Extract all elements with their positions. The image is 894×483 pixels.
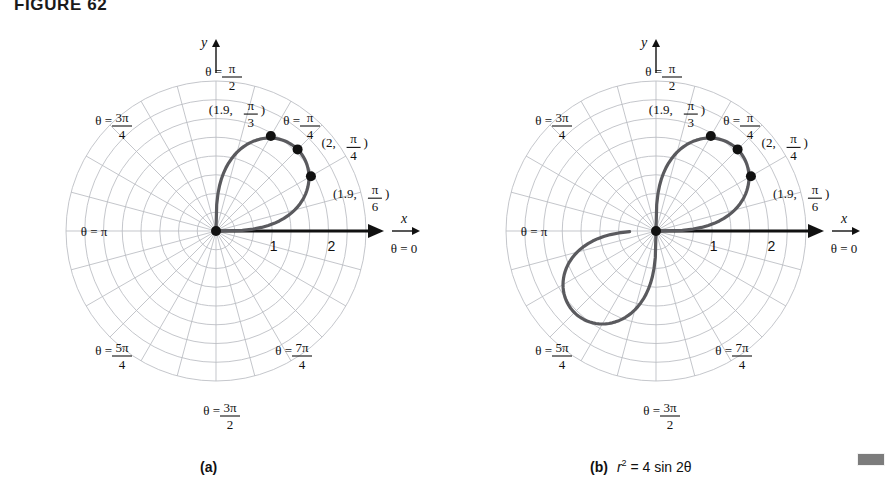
svg-text:5π: 5π — [555, 340, 569, 355]
svg-text:): ) — [261, 102, 265, 117]
point-label-0: (1.9,π3) — [209, 98, 265, 130]
svg-text:7π: 7π — [295, 340, 309, 355]
angle-label-theta-zero: θ = 0 — [831, 241, 858, 256]
angle-label-theta-zero: θ = 0 — [391, 241, 418, 256]
svg-text:4: 4 — [747, 127, 754, 142]
svg-text:3π: 3π — [663, 400, 677, 415]
svg-text:4: 4 — [790, 148, 797, 163]
svg-text:3: 3 — [248, 115, 255, 130]
svg-text:6: 6 — [812, 199, 819, 214]
origin-point — [651, 226, 661, 236]
radial-tick-labels: 12 — [270, 238, 336, 254]
data-point-0 — [266, 131, 276, 141]
svg-text:θ =: θ = — [95, 343, 112, 358]
angle-label-3pi-over-2: θ = 3π2 — [203, 400, 240, 432]
svg-text:): ) — [804, 135, 808, 150]
polar-plot-panel-a: yx12θ = π2θ = 3π4θ = πθ = 5π4θ = 3π2θ = … — [18, 18, 438, 438]
point-label-0: (1.9,π3) — [649, 98, 705, 130]
svg-text:θ =: θ = — [723, 113, 740, 128]
polar-chart-a: yx12θ = π2θ = 3π4θ = πθ = 5π4θ = 3π2θ = … — [18, 18, 438, 438]
x-axis-label: x — [400, 211, 408, 226]
svg-text:θ =: θ = — [275, 343, 292, 358]
svg-text:(1.9,: (1.9, — [773, 186, 797, 201]
radial-tick-1: 1 — [270, 238, 278, 254]
radial-tick-2: 2 — [327, 238, 335, 254]
angle-label-3pi-over-4: θ = 3π4 — [535, 110, 572, 142]
svg-text:π: π — [248, 98, 255, 113]
svg-text:θ =: θ = — [715, 343, 732, 358]
angle-label-pi-over-4: θ = π4 — [283, 110, 320, 142]
svg-text:θ = π: θ = π — [521, 224, 548, 239]
svg-text:θ =: θ = — [535, 113, 552, 128]
svg-text:4: 4 — [299, 357, 306, 372]
svg-text:π: π — [350, 131, 357, 146]
corner-gray-block — [857, 453, 885, 466]
svg-text:π: π — [307, 110, 314, 125]
svg-text:4: 4 — [119, 127, 126, 142]
svg-text:π: π — [229, 61, 236, 76]
point-label-2: (1.9,π6) — [333, 182, 389, 214]
caption-panel-b: (b)r2 = 4 sin 2θ — [590, 458, 692, 475]
radial-tick-2: 2 — [767, 238, 775, 254]
angle-label-5pi-over-4: θ = 5π4 — [95, 340, 132, 372]
caption-b-equation: r2 = 4 sin 2θ — [617, 459, 692, 475]
svg-text:θ =: θ = — [203, 403, 220, 418]
data-point-0 — [706, 131, 716, 141]
svg-text:(2,: (2, — [762, 135, 776, 150]
svg-text:4: 4 — [307, 127, 314, 142]
x-axis-label: x — [840, 211, 848, 226]
svg-text:): ) — [701, 102, 705, 117]
svg-text:θ = π: θ = π — [81, 224, 108, 239]
caption-panel-a: (a) — [200, 459, 217, 475]
svg-text:): ) — [385, 186, 389, 201]
svg-text:θ =: θ = — [95, 113, 112, 128]
data-point-1 — [733, 144, 743, 154]
svg-text:π: π — [747, 110, 754, 125]
svg-text:2: 2 — [227, 417, 234, 432]
y-axis-label: y — [639, 35, 648, 50]
angle-label-3pi-over-4: θ = 3π4 — [95, 110, 132, 142]
svg-text:3π: 3π — [555, 110, 569, 125]
svg-text:4: 4 — [559, 127, 566, 142]
svg-text:): ) — [825, 186, 829, 201]
svg-text:(1.9,: (1.9, — [333, 186, 357, 201]
svg-text:5π: 5π — [115, 340, 129, 355]
svg-text:(1.9,: (1.9, — [209, 102, 233, 117]
svg-text:θ =: θ = — [535, 343, 552, 358]
polar-chart-b: yx12θ = π2θ = 3π4θ = πθ = 5π4θ = 3π2θ = … — [458, 18, 878, 438]
svg-text:π: π — [669, 61, 676, 76]
svg-text:): ) — [364, 135, 368, 150]
svg-text:3: 3 — [688, 115, 695, 130]
caption-a-label: (a) — [200, 459, 217, 475]
svg-text:4: 4 — [119, 357, 126, 372]
svg-text:4: 4 — [559, 357, 566, 372]
caption-b-label: (b) — [590, 459, 608, 475]
angle-label-5pi-over-4: θ = 5π4 — [535, 340, 572, 372]
svg-text:π: π — [688, 98, 695, 113]
point-label-2: (1.9,π6) — [773, 182, 829, 214]
radial-tick-labels: 12 — [710, 238, 776, 254]
svg-text:2: 2 — [667, 417, 674, 432]
svg-text:θ =: θ = — [283, 113, 300, 128]
point-label-1: (2,π4) — [762, 131, 808, 163]
angle-label-7pi-over-4: θ = 7π4 — [715, 340, 752, 372]
angle-label-pi: θ = π — [521, 224, 548, 239]
point-label-1: (2,π4) — [322, 131, 368, 163]
angle-label-pi-over-4: θ = π4 — [723, 110, 760, 142]
data-point-1 — [293, 144, 303, 154]
svg-text:3π: 3π — [115, 110, 129, 125]
svg-text:4: 4 — [739, 357, 746, 372]
polar-plot-panel-b: yx12θ = π2θ = 3π4θ = πθ = 5π4θ = 3π2θ = … — [458, 18, 878, 438]
angle-label-3pi-over-2: θ = 3π2 — [643, 400, 680, 432]
svg-text:4: 4 — [350, 148, 357, 163]
svg-text:2: 2 — [229, 78, 236, 93]
data-point-2 — [306, 171, 316, 181]
svg-text:θ =: θ = — [205, 64, 222, 79]
figure-title: FIGURE 62 — [14, 0, 107, 15]
svg-text:π: π — [790, 131, 797, 146]
svg-text:π: π — [812, 182, 819, 197]
angle-label-pi: θ = π — [81, 224, 108, 239]
data-point-2 — [746, 171, 756, 181]
radial-tick-1: 1 — [710, 238, 718, 254]
svg-text:(1.9,: (1.9, — [649, 102, 673, 117]
